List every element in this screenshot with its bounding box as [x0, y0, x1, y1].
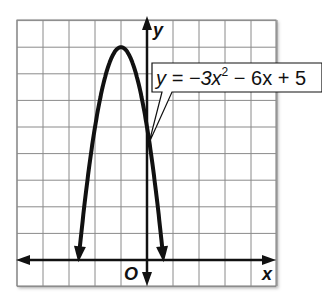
y-axis-label: y — [152, 20, 164, 40]
equation-label: y = −3x2 − 6x + 5 — [154, 65, 306, 89]
x-axis-label: x — [261, 264, 273, 284]
coordinate-plane: y = −3x2 − 6x + 5 y x O — [0, 0, 322, 296]
origin-label: O — [124, 264, 138, 284]
